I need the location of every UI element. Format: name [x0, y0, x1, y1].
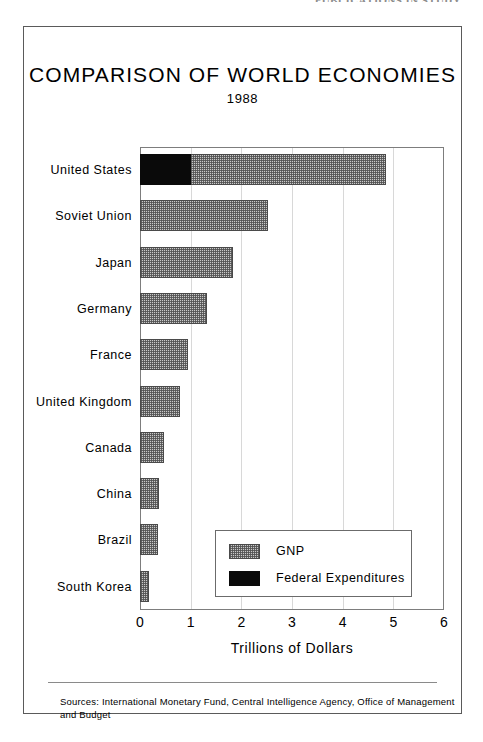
bar-fed — [140, 154, 191, 185]
bar-row — [140, 425, 444, 471]
x-axis-tick: 3 — [288, 614, 296, 630]
y-axis-label: China — [97, 471, 132, 517]
bar-gnp — [140, 524, 158, 555]
bar-gnp — [140, 432, 164, 463]
x-axis-tick: 4 — [339, 614, 347, 630]
bar-row — [140, 147, 444, 193]
x-axis-tick: 1 — [187, 614, 195, 630]
bar-gnp — [140, 339, 188, 370]
y-axis-label: Germany — [77, 286, 132, 332]
y-axis-label: Japan — [95, 240, 132, 286]
running-head: PUBLICATIONS IN STUDY — [315, 0, 461, 2]
sources-divider — [48, 682, 437, 683]
chart-title: COMPARISON OF WORLD ECONOMIES — [24, 63, 461, 87]
y-axis-label: Soviet Union — [55, 193, 132, 239]
x-axis-tick: 6 — [440, 614, 448, 630]
y-axis-labels: United StatesSoviet UnionJapanGermanyFra… — [0, 147, 132, 610]
y-axis-label: United Kingdom — [36, 379, 132, 425]
bar-gnp — [140, 478, 159, 509]
x-axis-tick: 2 — [237, 614, 245, 630]
legend-swatch-fed — [229, 571, 260, 586]
legend-item-gnp: GNP — [229, 542, 305, 560]
bar-row — [140, 332, 444, 378]
chart-subtitle: 1988 — [24, 91, 461, 106]
y-axis-label: United States — [50, 147, 132, 193]
bar-row — [140, 471, 444, 517]
legend-item-fed: Federal Expenditures — [229, 569, 405, 587]
bar-gnp — [140, 293, 207, 324]
legend-label: GNP — [276, 544, 305, 558]
x-axis-ticks: 0123456 — [140, 614, 444, 636]
bar-row — [140, 193, 444, 239]
legend-label: Federal Expenditures — [276, 571, 405, 585]
y-axis-label: Brazil — [98, 517, 132, 563]
bar-gnp — [140, 200, 268, 231]
bar-row — [140, 286, 444, 332]
bar-gnp — [140, 386, 180, 417]
bar-gnp — [140, 571, 149, 602]
chart-legend: GNPFederal Expenditures — [215, 530, 412, 597]
y-axis-label: France — [90, 332, 132, 378]
y-axis-label: Canada — [85, 425, 132, 471]
x-axis-tick: 0 — [136, 614, 144, 630]
bar-gnp — [140, 247, 233, 278]
sources-note: Sources: International Monetary Fund, Ce… — [60, 695, 460, 721]
y-axis-label: South Korea — [57, 564, 132, 610]
bar-row — [140, 379, 444, 425]
legend-swatch-gnp — [229, 544, 260, 559]
x-axis-title: Trillions of Dollars — [140, 640, 444, 656]
x-axis-tick: 5 — [389, 614, 397, 630]
bar-row — [140, 240, 444, 286]
